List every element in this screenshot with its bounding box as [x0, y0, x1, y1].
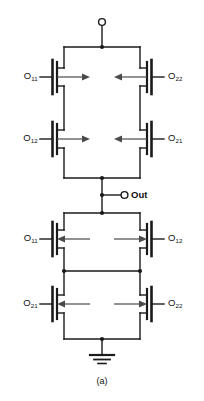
junction-dot-supply [100, 45, 104, 49]
output-node-label: Out [131, 189, 147, 200]
gate-label-p12: O12 [8, 133, 38, 143]
output-terminal-icon [121, 192, 128, 199]
junction-dot-lower-top [100, 211, 104, 215]
arrow-p11-icon [57, 74, 90, 81]
arrow-n21-icon [57, 301, 90, 308]
ground-symbol-icon [90, 339, 114, 364]
gate-label-n12: O12 [168, 233, 202, 243]
gate-label-p11: O11 [8, 71, 38, 81]
gate-label-n21: O21 [8, 298, 38, 308]
figure-caption: (a) [0, 376, 204, 386]
circuit-figure: O11 O22 O12 O21 O11 O12 O21 O22 Out (a) [0, 0, 204, 401]
arrow-n11-icon [57, 236, 90, 243]
arrow-n12-icon [114, 236, 147, 243]
junction-dot-mid-left [62, 269, 66, 273]
arrow-p22-icon [114, 74, 147, 81]
arrow-n22-icon [114, 301, 147, 308]
arrow-p12-icon [57, 136, 90, 143]
junction-dot-mid-right [138, 269, 142, 273]
gate-label-p21: O21 [168, 133, 202, 143]
supply-terminal-icon [99, 19, 106, 26]
junction-dot-upper-out [100, 176, 104, 180]
gate-label-p22: O22 [168, 71, 202, 81]
gate-label-n22: O22 [168, 298, 202, 308]
gate-label-n11: O11 [8, 233, 38, 243]
arrow-p21-icon [114, 136, 147, 143]
schematic-drawing [0, 0, 204, 401]
